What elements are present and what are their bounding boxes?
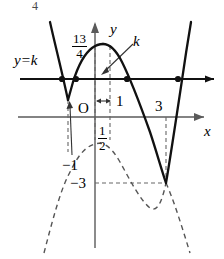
origin-label: O <box>78 101 89 116</box>
neg-three-label: −3 <box>70 176 86 191</box>
intersection-dot <box>59 76 65 82</box>
x-axis-label: x <box>204 124 211 139</box>
graph-canvas <box>0 0 224 259</box>
k-label-pointer-arrow <box>101 44 133 75</box>
three-label: 3 <box>155 99 163 114</box>
line-k-label: y=k <box>14 53 37 68</box>
peak-value-denominator: 4 <box>72 47 87 60</box>
peak-value-numerator: 13 <box>72 32 87 45</box>
unit-length-marker <box>96 99 111 104</box>
peak-value-fraction: 13 4 <box>72 32 87 61</box>
half-denominator: 2 <box>98 139 107 152</box>
intersection-dot <box>175 76 181 82</box>
half-fraction: 1 2 <box>98 124 107 153</box>
intersection-dot <box>73 76 79 82</box>
unit-one-label: 1 <box>116 94 124 109</box>
y-axis-label: y <box>110 22 117 37</box>
curve-k-label: k <box>133 34 140 49</box>
line-y-equals-k <box>20 76 214 83</box>
neg-one-label: −1 <box>62 158 78 173</box>
math-figure: 4 <box>0 0 224 259</box>
intersection-dot <box>124 76 130 82</box>
half-numerator: 1 <box>98 124 107 137</box>
